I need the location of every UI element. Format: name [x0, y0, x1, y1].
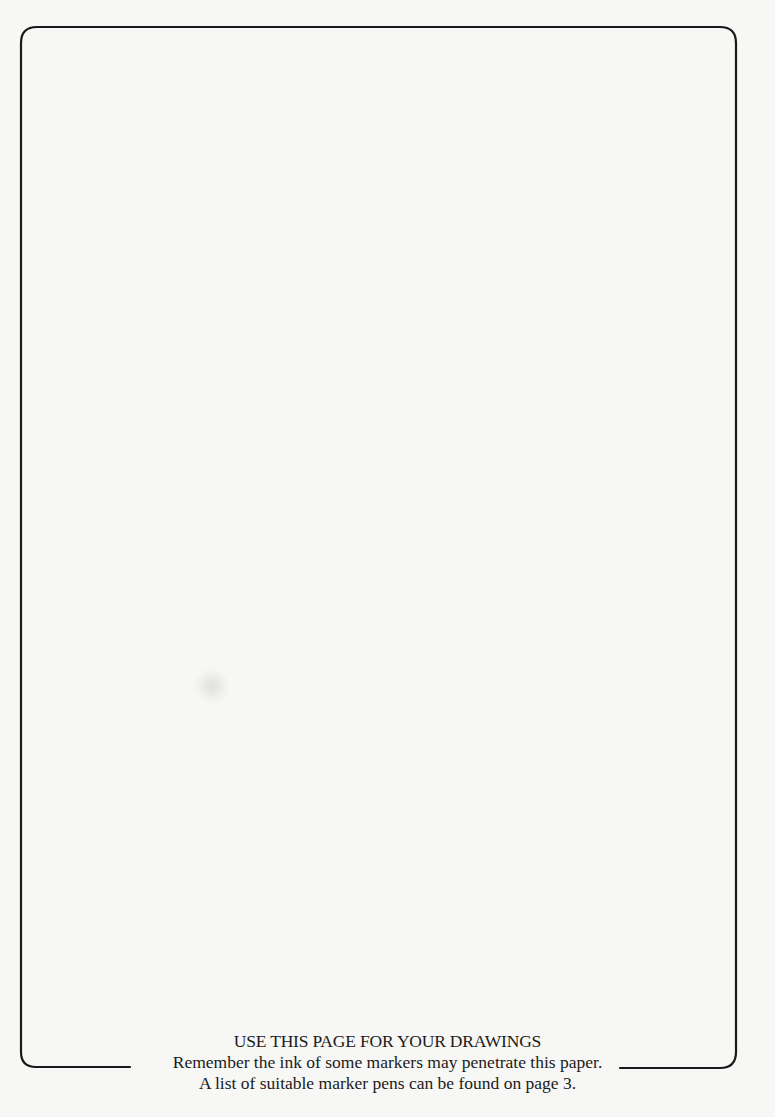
footer-reference-text: A list of suitable marker pens can be fo… — [0, 1073, 775, 1094]
drawing-area-border — [0, 0, 775, 1117]
footer-warning-text: Remember the ink of some markers may pen… — [0, 1052, 775, 1073]
footer-heading: USE THIS PAGE FOR YOUR DRAWINGS — [0, 1031, 775, 1052]
drawing-page: USE THIS PAGE FOR YOUR DRAWINGS Remember… — [0, 0, 775, 1117]
page-footer-instructions: USE THIS PAGE FOR YOUR DRAWINGS Remember… — [0, 1031, 775, 1094]
